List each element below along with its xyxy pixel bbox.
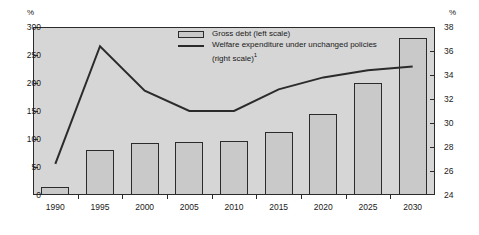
x-axis-tick-mark <box>212 195 213 199</box>
chart-figure: % % 050100150200250300 2426283032343638 … <box>0 0 479 235</box>
legend-footnote-marker: 1 <box>254 52 257 58</box>
x-axis-tick-mark <box>167 195 168 199</box>
x-axis-tick-label: 2025 <box>348 202 388 212</box>
x-axis-tick-mark <box>301 195 302 199</box>
right-axis-tick-label: 24 <box>444 190 470 200</box>
right-axis-tick-label: 36 <box>444 46 470 56</box>
right-axis-tick-label: 28 <box>444 142 470 152</box>
right-axis-tick-label: 38 <box>444 22 470 32</box>
x-axis-tick-mark <box>390 195 391 199</box>
right-axis-tick-label: 32 <box>444 94 470 104</box>
right-axis-unit-label: % <box>449 8 456 17</box>
x-axis-tick-label: 1995 <box>80 202 120 212</box>
x-axis-tick-label: 2030 <box>393 202 433 212</box>
x-axis-tick-mark <box>78 195 79 199</box>
x-axis-tick-mark <box>122 195 123 199</box>
legend-item-welfare-continued: (right scale)1 <box>178 50 388 64</box>
legend-item-welfare-expenditure: Welfare expenditure under unchanged poli… <box>178 40 388 51</box>
legend-line-swatch-icon <box>178 45 204 47</box>
right-axis-tick-label: 34 <box>444 70 470 80</box>
legend-label-welfare-line1: Welfare expenditure under unchanged poli… <box>212 40 377 49</box>
x-axis-tick-label: 2010 <box>214 202 254 212</box>
legend-item-gross-debt: Gross debt (left scale) <box>178 29 388 40</box>
x-axis-tick-label: 2005 <box>169 202 209 212</box>
x-axis-tick-label: 2015 <box>259 202 299 212</box>
legend-bar-swatch-icon <box>178 31 204 38</box>
x-axis-tick-mark <box>256 195 257 199</box>
right-axis-tick-label: 26 <box>444 166 470 176</box>
left-axis-unit-label: % <box>27 8 34 17</box>
right-axis-tick-label: 30 <box>444 118 470 128</box>
x-axis-tick-label: 1990 <box>35 202 75 212</box>
legend-label-welfare-line2: (right scale) <box>212 54 254 63</box>
chart-legend: Gross debt (left scale) Welfare expendit… <box>178 29 388 64</box>
legend-label-gross-debt: Gross debt (left scale) <box>212 29 290 38</box>
x-axis-tick-label: 2000 <box>125 202 165 212</box>
x-axis-tick-mark <box>346 195 347 199</box>
x-axis-tick-label: 2020 <box>303 202 343 212</box>
